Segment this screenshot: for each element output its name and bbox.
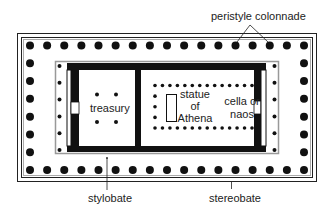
column	[77, 166, 85, 174]
column	[161, 84, 165, 88]
column	[228, 84, 232, 88]
column	[153, 84, 157, 88]
label-stereobate: stereobate	[209, 193, 261, 204]
column	[26, 59, 34, 67]
wall-divider	[135, 70, 141, 146]
parthenon-plan	[0, 0, 333, 214]
column	[273, 81, 277, 85]
column	[266, 42, 274, 50]
column	[214, 42, 222, 50]
label-statue-line2: of	[178, 101, 212, 112]
label-cella-line2: naos	[219, 109, 265, 120]
column	[26, 130, 34, 138]
column	[26, 148, 34, 156]
statue-base	[167, 95, 177, 122]
column	[214, 166, 222, 174]
column	[300, 42, 308, 50]
column	[300, 59, 308, 67]
label-statue-line1: statue	[178, 89, 212, 100]
column	[112, 166, 120, 174]
column	[153, 126, 157, 130]
column	[300, 130, 308, 138]
column	[95, 42, 103, 50]
label-stylobate: stylobate	[88, 193, 132, 204]
column	[300, 113, 308, 121]
column	[243, 126, 247, 130]
column	[250, 126, 254, 130]
column	[300, 95, 308, 103]
column	[168, 84, 172, 88]
column	[163, 42, 171, 50]
label-cella-line1: cella or	[219, 96, 265, 107]
column	[191, 84, 195, 88]
column	[180, 42, 188, 50]
column	[197, 42, 205, 50]
left-anta	[67, 70, 71, 146]
column	[161, 126, 165, 130]
column	[58, 81, 62, 85]
column	[129, 166, 137, 174]
column	[300, 148, 308, 156]
column	[153, 105, 157, 109]
column	[283, 42, 291, 50]
column	[58, 114, 62, 118]
column	[205, 126, 209, 130]
wall-bottom	[67, 146, 266, 152]
column	[176, 126, 180, 130]
column	[129, 42, 137, 50]
column	[228, 126, 232, 130]
column	[273, 131, 277, 135]
column	[58, 148, 62, 152]
column	[249, 42, 257, 50]
column	[273, 64, 277, 68]
column	[26, 95, 34, 103]
column	[26, 42, 34, 50]
column	[58, 131, 62, 135]
column	[205, 84, 209, 88]
column	[273, 114, 277, 118]
column	[153, 116, 157, 120]
column	[168, 126, 172, 130]
column	[266, 166, 274, 174]
column	[163, 166, 171, 174]
column	[26, 77, 34, 85]
column	[235, 126, 239, 130]
label-treasury: treasury	[90, 103, 130, 114]
column	[112, 42, 120, 50]
column	[243, 84, 247, 88]
right-anta	[261, 70, 266, 146]
column	[235, 84, 239, 88]
column	[153, 94, 157, 98]
column	[60, 166, 68, 174]
column	[283, 166, 291, 174]
wall-top	[67, 63, 266, 70]
stylobate-marker	[106, 157, 108, 159]
column	[95, 166, 103, 174]
column	[300, 166, 308, 174]
column	[198, 84, 202, 88]
column	[191, 126, 195, 130]
column	[58, 98, 62, 102]
column	[273, 98, 277, 102]
label-statue-line3: Athena	[176, 113, 214, 124]
column	[232, 42, 240, 50]
column	[58, 64, 62, 68]
column	[232, 166, 240, 174]
column	[26, 166, 34, 174]
column	[213, 126, 217, 130]
column	[77, 42, 85, 50]
column	[146, 42, 154, 50]
column	[183, 84, 187, 88]
column	[198, 126, 202, 130]
column	[250, 84, 254, 88]
column	[183, 126, 187, 130]
column	[300, 77, 308, 85]
column	[220, 126, 224, 130]
column	[249, 166, 257, 174]
column	[273, 148, 277, 152]
column	[60, 42, 68, 50]
label-peristyle-colonnade: peristyle colonnade	[211, 11, 306, 22]
column	[43, 166, 51, 174]
column	[180, 166, 188, 174]
column	[43, 42, 51, 50]
